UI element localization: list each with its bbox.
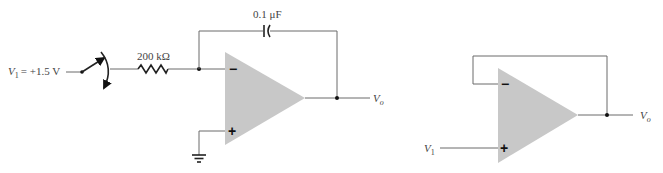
inverting-input-sign: − [229, 61, 237, 77]
output-junction-dot [335, 96, 339, 100]
integrator-circuit: V1= +1.5 V 200 kΩ 0.1 μF − + [8, 8, 384, 162]
capacitor-label: 0.1 μF [253, 8, 282, 20]
ground-wire [199, 131, 225, 155]
input-voltage-label: V1 [424, 142, 435, 157]
circuit-figure: V1= +1.5 V 200 kΩ 0.1 μF − + [0, 0, 663, 173]
resistor-label: 200 kΩ [137, 50, 170, 62]
resistor-icon [138, 65, 168, 73]
opamp-triangle [498, 68, 578, 163]
output-voltage-label: Vo [373, 92, 384, 107]
noninverting-input-sign: + [500, 140, 508, 156]
voltage-follower-circuit: − + V1 Vo [424, 56, 651, 163]
switch-icon[interactable] [80, 52, 108, 88]
output-junction-dot [605, 113, 609, 117]
noninverting-input-sign: + [228, 123, 236, 139]
inverting-input-sign: − [501, 76, 509, 92]
input-voltage-label: V1= +1.5 V [8, 65, 60, 80]
capacitor-icon [264, 25, 270, 37]
ground-icon [192, 155, 206, 162]
output-voltage-label: Vo [640, 109, 651, 124]
